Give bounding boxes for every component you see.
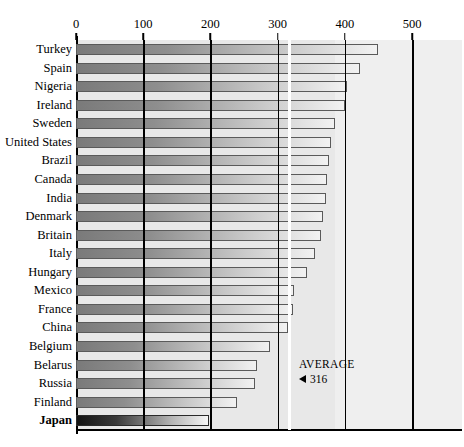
- category-label-brazil: Brazil: [0, 151, 72, 170]
- bar-row: [76, 411, 462, 430]
- x-tick-label: 300: [268, 17, 287, 31]
- x-tick-label: 200: [201, 17, 220, 31]
- x-tick-label: 100: [134, 17, 153, 31]
- bar: [76, 378, 255, 389]
- left-triangle-icon: [299, 375, 306, 383]
- bar: [76, 397, 237, 408]
- bar-row: [76, 59, 462, 78]
- bar-row: [76, 151, 462, 170]
- bar-row: [76, 337, 462, 356]
- average-label: AVERAGE: [299, 357, 355, 371]
- bar-row: [76, 356, 462, 375]
- gridline: [278, 40, 280, 430]
- category-label-india: India: [0, 189, 72, 208]
- category-label-turkey: Turkey: [0, 40, 72, 59]
- x-tick-mark: [411, 33, 413, 40]
- bar: [76, 44, 378, 55]
- category-label-china: China: [0, 318, 72, 337]
- bar-row: [76, 40, 462, 59]
- x-tick-label: 400: [335, 17, 354, 31]
- x-tick-mark: [277, 33, 279, 40]
- x-tick-label: 500: [403, 17, 422, 31]
- category-label-hungary: Hungary: [0, 263, 72, 282]
- category-label-sweden: Sweden: [0, 114, 72, 133]
- bar-row: [76, 207, 462, 226]
- bar-row: [76, 393, 462, 412]
- x-tick-label: 0: [73, 17, 79, 31]
- category-label-britain: Britain: [0, 226, 72, 245]
- bar-row: [76, 281, 462, 300]
- bar: [76, 304, 293, 315]
- bar-series: [76, 40, 462, 430]
- bar: [76, 248, 315, 259]
- category-label-belarus: Belarus: [0, 356, 72, 375]
- bar-row: [76, 226, 462, 245]
- bar-row: [76, 133, 462, 152]
- category-label-russia: Russia: [0, 374, 72, 393]
- bar-chart: 0100200300400500 TurkeySpainNigeriaIrela…: [0, 0, 464, 447]
- bar: [76, 341, 270, 352]
- gridline: [143, 40, 145, 430]
- bar-row: [76, 300, 462, 319]
- bar: [76, 137, 331, 148]
- category-label-spain: Spain: [0, 59, 72, 78]
- bar-row: [76, 374, 462, 393]
- bar: [76, 285, 294, 296]
- category-label-mexico: Mexico: [0, 281, 72, 300]
- category-label-denmark: Denmark: [0, 207, 72, 226]
- category-label-italy: Italy: [0, 244, 72, 263]
- bar-row: [76, 114, 462, 133]
- category-label-canada: Canada: [0, 170, 72, 189]
- bar-row: [76, 96, 462, 115]
- bar-row: [76, 244, 462, 263]
- average-value: 316: [310, 372, 327, 386]
- category-axis-labels: TurkeySpainNigeriaIrelandSwedenUnited St…: [0, 40, 72, 430]
- bar-row: [76, 318, 462, 337]
- category-label-ireland: Ireland: [0, 96, 72, 115]
- category-label-finland: Finland: [0, 393, 72, 412]
- category-label-united-states: United States: [0, 133, 72, 152]
- gridline: [210, 40, 212, 430]
- bar: [76, 267, 307, 278]
- bar: [76, 230, 321, 241]
- bar-row: [76, 170, 462, 189]
- category-label-nigeria: Nigeria: [0, 77, 72, 96]
- bar: [76, 360, 257, 371]
- average-reference-line: [288, 40, 290, 430]
- category-label-japan: Japan: [0, 411, 72, 430]
- category-label-france: France: [0, 300, 72, 319]
- bar: [76, 155, 329, 166]
- bar: [76, 211, 323, 222]
- category-label-belgium: Belgium: [0, 337, 72, 356]
- x-axis-top: 0100200300400500: [0, 17, 464, 35]
- bar: [76, 118, 335, 129]
- gridline: [412, 40, 414, 430]
- x-tick-mark: [142, 33, 144, 40]
- x-tick-mark: [210, 33, 212, 40]
- x-tick-mark: [344, 33, 346, 40]
- bar-row: [76, 77, 462, 96]
- bar: [76, 322, 288, 333]
- bar: [76, 63, 360, 74]
- plot-area: [76, 40, 462, 430]
- bar-row: [76, 189, 462, 208]
- average-annotation: AVERAGE 316: [299, 357, 355, 386]
- bar-row: [76, 263, 462, 282]
